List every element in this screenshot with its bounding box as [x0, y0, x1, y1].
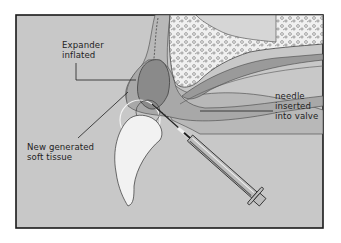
label-line: New generated: [27, 142, 94, 152]
label-line: needle: [275, 91, 318, 101]
diagram-canvas: [0, 0, 341, 243]
diagram: Expander inflated New generated soft tis…: [0, 0, 341, 243]
label-line: into valve: [275, 111, 318, 121]
label-needle-inserted: needle inserted into valve: [275, 91, 318, 121]
label-expander-inflated: Expander inflated: [62, 40, 104, 60]
label-new-soft-tissue: New generated soft tissue: [27, 142, 94, 162]
label-line: inserted: [275, 101, 318, 111]
label-line: inflated: [62, 50, 104, 60]
label-line: Expander: [62, 40, 104, 50]
label-line: soft tissue: [27, 152, 94, 162]
